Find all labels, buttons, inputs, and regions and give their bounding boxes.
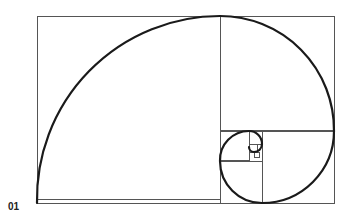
golden-square xyxy=(255,153,260,158)
golden-rectangle-grid xyxy=(38,17,335,204)
figure-label: 01 xyxy=(8,201,19,212)
golden-square xyxy=(38,17,221,200)
golden-spiral-diagram xyxy=(0,0,352,222)
outer-rectangle xyxy=(38,17,335,204)
golden-spiral-curve xyxy=(37,16,334,203)
golden-square xyxy=(221,132,250,161)
golden-square xyxy=(221,17,335,131)
